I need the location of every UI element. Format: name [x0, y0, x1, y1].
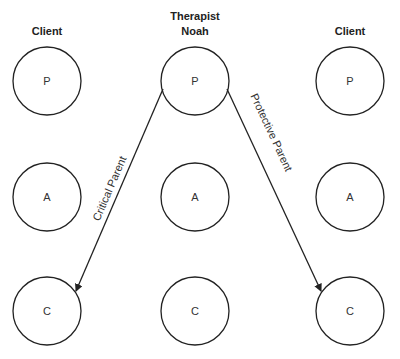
protective-parent-arrow: Protective Parent: [227, 89, 321, 291]
right-child-node: C: [316, 277, 384, 345]
center-column-header-line2: Noah: [181, 25, 209, 37]
node-label: A: [191, 191, 199, 203]
node-label: A: [346, 191, 354, 203]
critical-parent-arrow: Critical Parent: [76, 89, 163, 291]
node-label: P: [43, 75, 50, 87]
center-child-node: C: [161, 277, 229, 345]
node-label: P: [191, 75, 198, 87]
node-label: C: [346, 305, 354, 317]
right-parent-node: P: [316, 47, 384, 115]
left-parent-node: P: [13, 47, 81, 115]
right-column-header: Client: [335, 25, 366, 37]
ego-state-diagram: Client Therapist Noah Client P A C P A C…: [0, 0, 400, 359]
edge-label: Protective Parent: [248, 92, 295, 174]
node-label: A: [43, 191, 51, 203]
left-adult-node: A: [13, 163, 81, 231]
right-adult-node: A: [316, 163, 384, 231]
center-adult-node: A: [161, 163, 229, 231]
left-column-header: Client: [32, 25, 63, 37]
node-label: C: [191, 305, 199, 317]
left-child-node: C: [13, 277, 81, 345]
node-label: P: [346, 75, 353, 87]
node-label: C: [43, 305, 51, 317]
center-column-header-line1: Therapist: [170, 10, 220, 22]
center-parent-node: P: [161, 47, 229, 115]
